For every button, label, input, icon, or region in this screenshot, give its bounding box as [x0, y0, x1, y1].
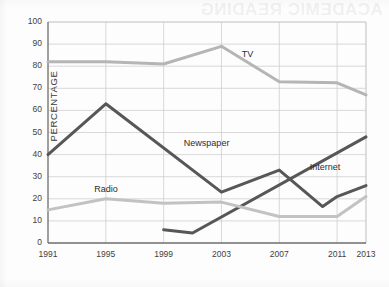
y-axis-tick-label: 50	[16, 127, 42, 137]
series-label-tv: TV	[242, 49, 254, 59]
series-label-newspaper: Newspaper	[184, 138, 230, 148]
x-axis-tick-label: 1999	[144, 249, 184, 259]
y-axis-title: PERCENTAGE	[48, 51, 59, 161]
y-axis-tick-label: 20	[16, 193, 42, 203]
y-axis-tick-label: 80	[16, 60, 42, 70]
series-line-internet	[164, 137, 366, 233]
y-axis-tick-label: 60	[16, 104, 42, 114]
x-axis-tick-label: 2003	[201, 249, 241, 259]
y-axis-tick-label: 30	[16, 171, 42, 181]
y-axis-tick-label: 90	[16, 38, 42, 48]
x-axis-tick-label: 2013	[346, 249, 386, 259]
y-axis-tick-label: 10	[16, 215, 42, 225]
x-axis-tick-label: 1991	[28, 249, 68, 259]
y-axis-tick-label: 40	[16, 149, 42, 159]
series-line-radio	[48, 197, 366, 217]
y-axis-tick-label: 0	[16, 237, 42, 247]
x-axis-tick-label: 2007	[259, 249, 299, 259]
series-label-radio: Radio	[94, 184, 118, 194]
series-label-internet: Internet	[310, 162, 341, 172]
x-axis-tick-label: 1995	[86, 249, 126, 259]
y-axis-tick-label: 100	[16, 16, 42, 26]
series-line-tv	[48, 46, 366, 95]
line-chart: PERCENTAGE 01020304050607080901001991199…	[0, 0, 389, 287]
y-axis-tick-label: 70	[16, 82, 42, 92]
scanned-page: ACADEMIC READING PERCENTAGE 010203040506…	[0, 0, 389, 287]
